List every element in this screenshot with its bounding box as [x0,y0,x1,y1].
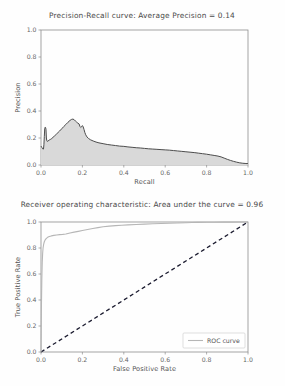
y-tick-label: 0.8 [27,244,37,251]
y-tick-label: 0.0 [27,161,37,168]
roc-plot-area: 0.00.20.40.60.81.00.00.20.40.60.81.0Fals… [14,218,253,373]
precision-recall-title: Precision-Recall curve: Average Precisio… [49,11,235,20]
x-tick-label: 0.2 [77,169,87,176]
y-tick-label: 0.2 [27,322,37,329]
roc-chart: Receiver operating characteristic: Area … [0,193,285,386]
x-tick-label: 0.4 [119,356,129,363]
y-tick-label: 0.2 [27,134,37,141]
y-tick-label: 1.0 [27,218,37,225]
x-tick-label: 0.2 [77,356,87,363]
y-tick-label: 1.0 [27,26,37,33]
precision-recall-chart: Precision-Recall curve: Average Precisio… [0,0,285,193]
y-axis-label: True Positive Rate [14,257,22,319]
precision-recall-fill [41,119,248,165]
roc-legend: ROC curve [183,333,245,348]
y-tick-label: 0.4 [27,107,37,114]
x-tick-label: 0.8 [202,169,212,176]
x-tick-label: 0.0 [36,169,46,176]
x-axis-label: False Positive Rate [113,365,176,373]
x-tick-label: 1.0 [243,169,253,176]
chance-diagonal-line [41,222,248,352]
roc-figure: Receiver operating characteristic: Area … [0,193,285,386]
y-tick-label: 0.6 [27,270,37,277]
y-tick-label: 0.6 [27,80,37,87]
x-axis-label: Recall [134,178,154,186]
roc-title: Receiver operating characteristic: Area … [21,200,264,209]
figure-page: Precision-Recall curve: Average Precisio… [0,0,285,386]
x-tick-label: 0.6 [160,169,170,176]
x-tick-label: 0.6 [160,356,170,363]
y-tick-label: 0.0 [27,348,37,355]
y-axis-label: Precision [14,82,22,112]
x-tick-label: 0.0 [36,356,46,363]
precision-recall-figure: Precision-Recall curve: Average Precisio… [0,0,285,193]
legend-label-roc-curve: ROC curve [207,337,240,344]
x-tick-label: 0.4 [119,169,129,176]
precision-recall-plot-area: 0.00.20.40.60.81.00.00.20.40.60.81.0Reca… [14,26,253,186]
y-tick-label: 0.4 [27,296,37,303]
x-tick-label: 0.8 [202,356,212,363]
y-tick-label: 0.8 [27,53,37,60]
x-tick-label: 1.0 [243,356,253,363]
